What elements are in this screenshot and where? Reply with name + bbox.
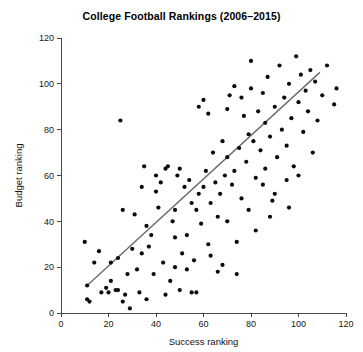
data-point (287, 82, 291, 86)
data-point (147, 244, 151, 248)
data-point (161, 260, 165, 264)
x-tick-label: 0 (58, 319, 63, 329)
data-point (301, 130, 305, 134)
x-tick-label: 60 (198, 319, 208, 329)
data-point (220, 139, 224, 143)
data-point (247, 208, 251, 212)
data-point (320, 93, 324, 97)
x-tick-label: 80 (246, 319, 256, 329)
data-point (140, 251, 144, 255)
data-point (268, 134, 272, 138)
data-point (87, 299, 91, 303)
data-point (106, 290, 110, 294)
chart-figure: College Football Rankings (2006–2015) 02… (0, 0, 363, 352)
y-tick-label: 80 (44, 125, 54, 135)
data-point (251, 139, 255, 143)
data-point (254, 176, 258, 180)
data-point (292, 164, 296, 168)
data-point (109, 279, 113, 283)
data-point (232, 169, 236, 173)
data-point (125, 272, 129, 276)
data-point (135, 267, 139, 271)
data-point (178, 288, 182, 292)
data-point (216, 215, 220, 219)
data-point (242, 114, 246, 118)
data-point (247, 132, 251, 136)
data-point (216, 270, 220, 274)
y-axis-title: Budget ranking (13, 144, 24, 208)
data-point (263, 121, 267, 125)
data-point (121, 299, 125, 303)
data-point (235, 272, 239, 276)
y-tick-label: 40 (44, 217, 54, 227)
data-point (277, 63, 281, 67)
y-tick-label: 100 (39, 79, 54, 89)
data-point (261, 91, 265, 95)
data-point (220, 263, 224, 267)
y-tick-label: 120 (39, 33, 54, 43)
data-point (185, 267, 189, 271)
data-point (223, 173, 227, 177)
data-point (282, 95, 286, 99)
data-point (152, 272, 156, 276)
data-point (270, 199, 274, 203)
data-point (325, 63, 329, 67)
data-point (280, 128, 284, 132)
data-point (173, 265, 177, 269)
x-tick-label: 100 (291, 319, 306, 329)
data-point (109, 260, 113, 264)
data-point (239, 196, 243, 200)
data-point (197, 105, 201, 109)
data-point (204, 169, 208, 173)
data-points (83, 54, 339, 310)
data-point (166, 164, 170, 168)
data-point (289, 116, 293, 120)
data-point (154, 173, 158, 177)
data-point (254, 228, 258, 232)
y-tick-label: 20 (44, 262, 54, 272)
data-point (296, 173, 300, 177)
data-point (178, 167, 182, 171)
data-point (211, 150, 215, 154)
data-point (149, 233, 153, 237)
data-point (273, 105, 277, 109)
data-point (144, 297, 148, 301)
data-point (258, 148, 262, 152)
data-point (315, 118, 319, 122)
data-point (92, 260, 96, 264)
data-point (225, 155, 229, 159)
data-point (249, 86, 253, 90)
data-point (213, 180, 217, 184)
data-point (275, 155, 279, 159)
data-point (133, 212, 137, 216)
data-point (209, 201, 213, 205)
data-point (144, 224, 148, 228)
axis-labels: 020406080100120020406080100120Success ra… (13, 33, 354, 347)
data-point (123, 293, 127, 297)
data-point (168, 279, 172, 283)
data-point (159, 180, 163, 184)
data-point (206, 112, 210, 116)
data-point (163, 293, 167, 297)
data-point (304, 89, 308, 93)
data-point (230, 183, 234, 187)
data-point (180, 251, 184, 255)
data-point (197, 192, 201, 196)
data-point (121, 208, 125, 212)
data-point (194, 290, 198, 294)
data-point (97, 249, 101, 253)
data-point (332, 102, 336, 106)
data-point (228, 93, 232, 97)
data-point (201, 185, 205, 189)
data-point (239, 95, 243, 99)
data-point (308, 68, 312, 72)
data-point (313, 79, 317, 83)
y-tick-label: 0 (49, 308, 54, 318)
data-point (85, 283, 89, 287)
data-point (225, 219, 229, 223)
data-point (285, 144, 289, 148)
data-point (173, 235, 177, 239)
data-point (266, 75, 270, 79)
data-point (209, 254, 213, 258)
data-point (285, 178, 289, 182)
